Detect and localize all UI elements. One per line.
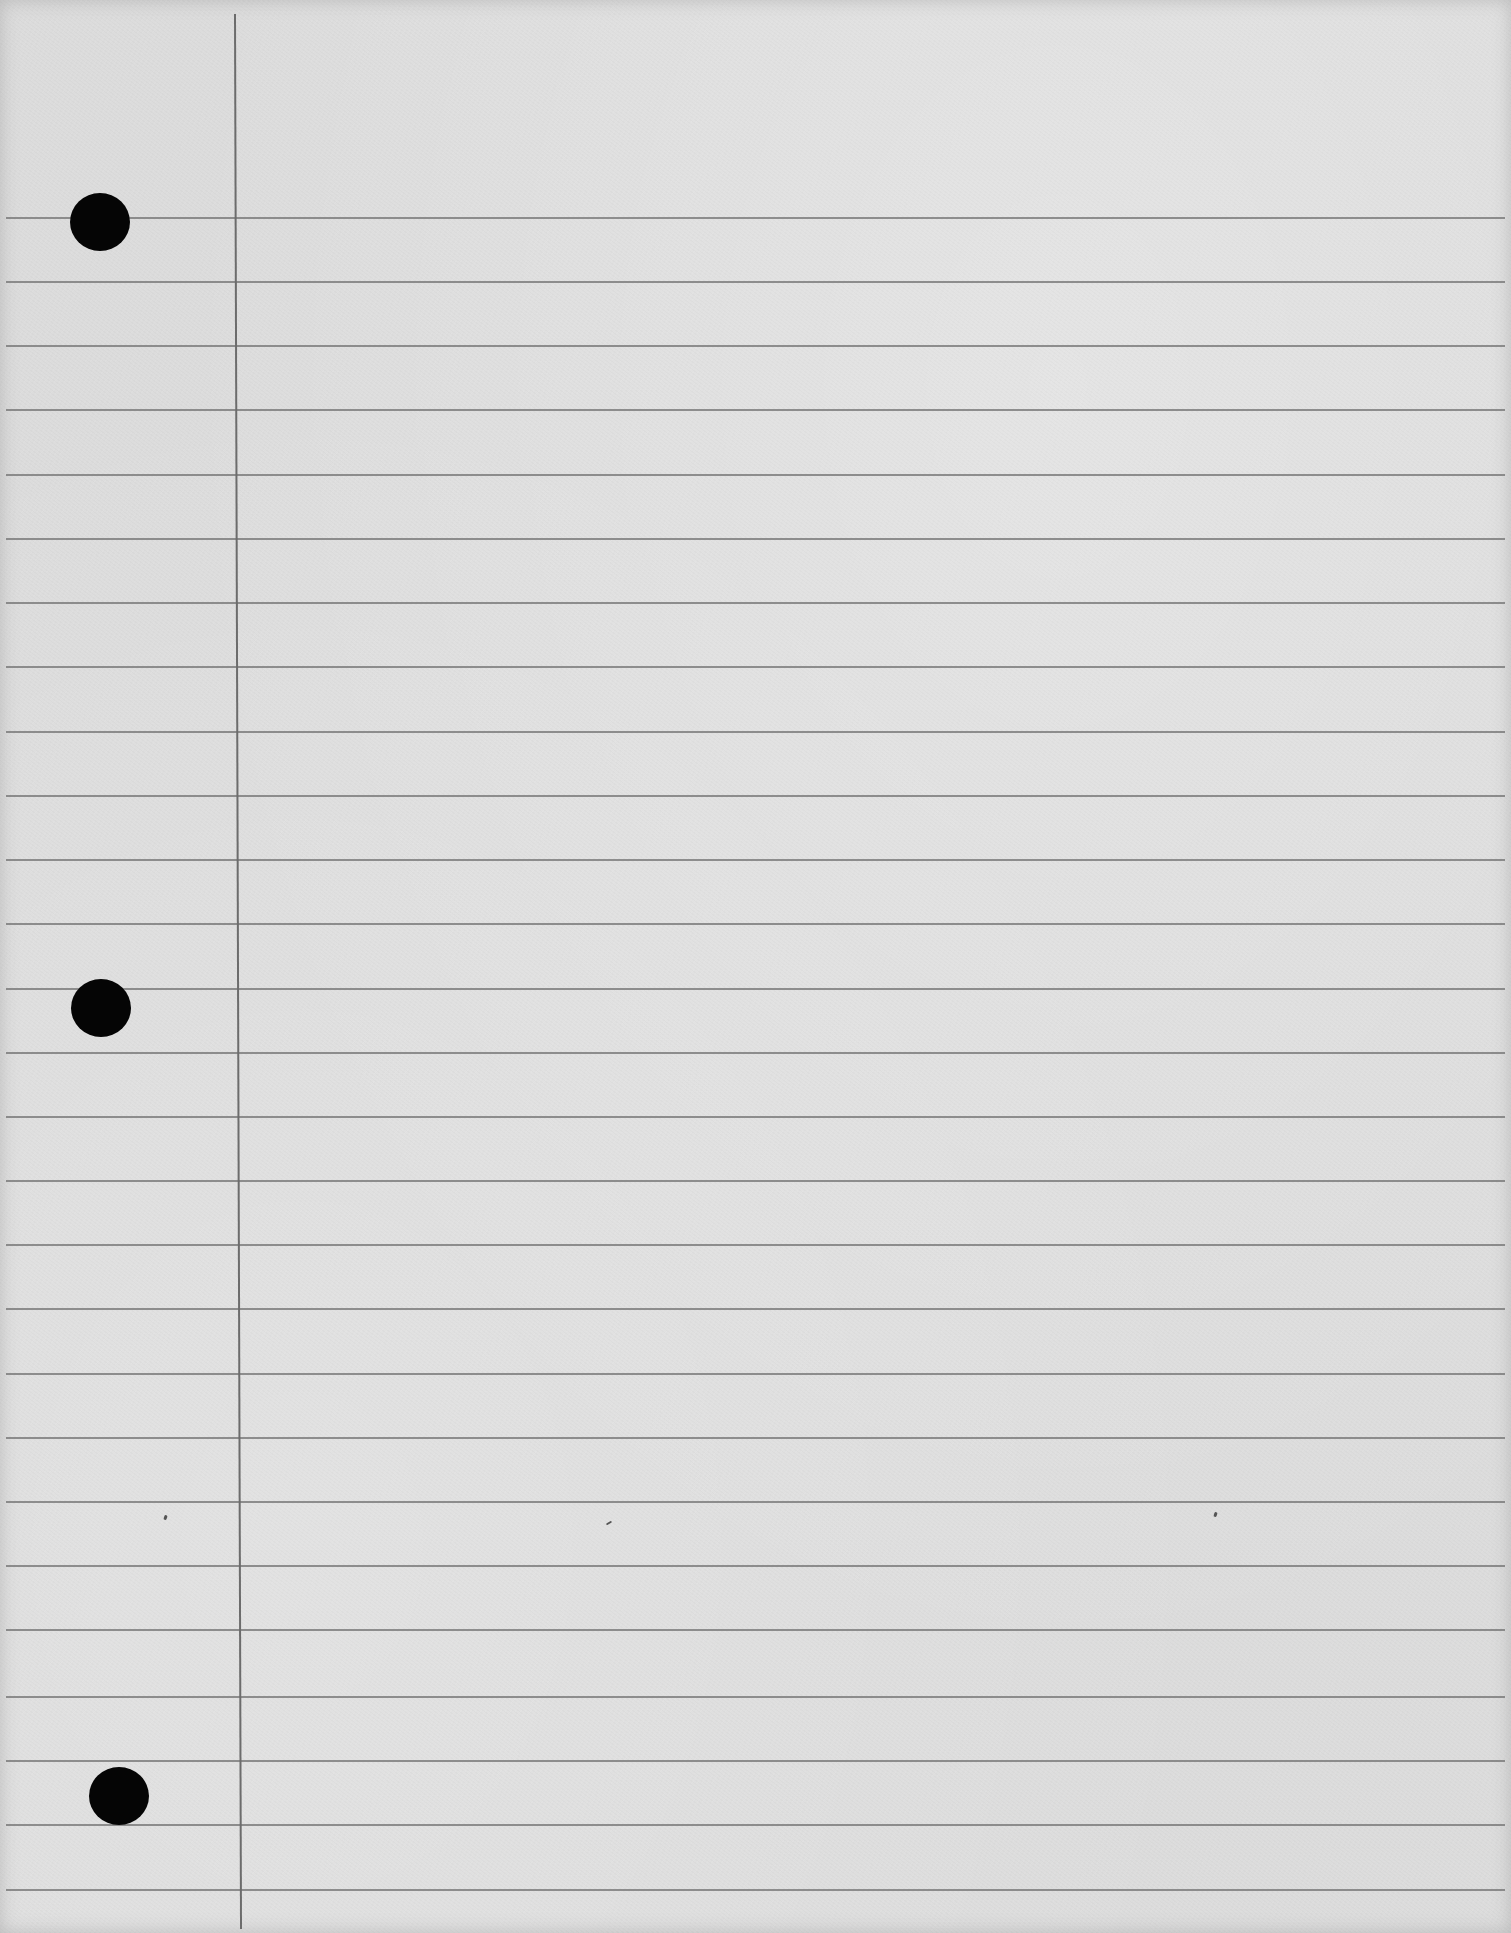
ruled-line (6, 281, 1505, 283)
ruled-line (6, 923, 1505, 925)
ruled-line (6, 859, 1505, 861)
ruled-line (6, 1824, 1505, 1826)
paper-speck (163, 1515, 168, 1521)
ruled-line (6, 474, 1505, 476)
ruled-line (6, 1052, 1505, 1054)
ruled-line (6, 795, 1505, 797)
ruled-line (6, 1696, 1505, 1698)
ruled-line (6, 1244, 1505, 1246)
paper-speck (1213, 1512, 1218, 1518)
notebook-page (0, 0, 1511, 1933)
ruled-line (6, 217, 1505, 219)
ruled-line (6, 1180, 1505, 1182)
ruled-line (6, 409, 1505, 411)
ruled-line (6, 1565, 1505, 1567)
bottom-hole (89, 1767, 149, 1825)
ruled-line (6, 1889, 1505, 1891)
ruled-line (6, 666, 1505, 668)
ruled-line (6, 602, 1505, 604)
margin-line (234, 14, 242, 1929)
ruled-line (6, 1308, 1505, 1310)
ruled-line (6, 345, 1505, 347)
ruled-line (6, 988, 1505, 990)
top-hole (70, 193, 130, 251)
middle-hole (71, 979, 131, 1037)
paper-speck (606, 1521, 612, 1526)
ruled-line (6, 1501, 1505, 1503)
ruled-line (6, 731, 1505, 733)
ruled-line (6, 538, 1505, 540)
page-edge-shadow (0, 0, 1511, 1933)
ruled-line (6, 1116, 1505, 1118)
ruled-line (6, 1629, 1505, 1631)
ruled-line (6, 1760, 1505, 1762)
ruled-line (6, 1437, 1505, 1439)
ruled-line (6, 1373, 1505, 1375)
